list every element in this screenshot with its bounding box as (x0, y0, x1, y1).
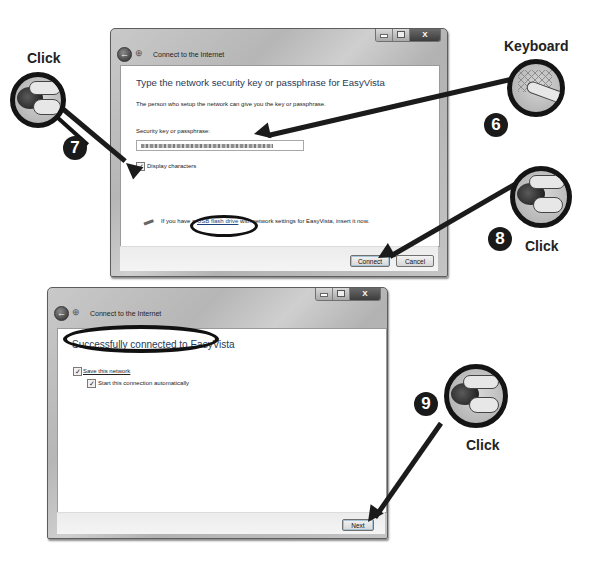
mouse-click-icon (510, 166, 572, 228)
highlight-oval-usb-link (190, 215, 258, 237)
keyboard-icon (507, 59, 565, 117)
callout-6-label: Keyboard (504, 38, 569, 54)
window-title: Connect to the Internet (90, 310, 161, 317)
back-arrow-icon[interactable]: ← (54, 306, 69, 321)
start-automatically-label[interactable]: Start this connection automatically (98, 380, 189, 386)
security-key-input[interactable] (136, 140, 304, 151)
obscured-key-text (141, 144, 273, 148)
hand-fingers (529, 175, 565, 189)
close-button[interactable]: X (410, 29, 440, 41)
hand-fingers (463, 375, 499, 389)
callout-8-label: Click (525, 238, 558, 254)
step-9-badge: 9 (414, 392, 438, 416)
connect-window-success: X ← ⊕ Connect to the Internet Successful… (47, 287, 388, 539)
description-text: The person who setup the network can giv… (136, 101, 326, 107)
callout-9-label: Click (466, 437, 499, 453)
caption-buttons: X (315, 288, 381, 301)
usb-text-suffix: with network settings for EasyVista, ins… (238, 218, 369, 224)
network-icon: ⊕ (135, 48, 143, 58)
close-button[interactable]: X (350, 288, 380, 300)
start-automatically-checkbox[interactable]: ✓ (87, 379, 96, 388)
callout-7-label: Click (27, 50, 60, 66)
mouse-click-icon (444, 364, 508, 428)
step-8-badge: 8 (488, 227, 512, 251)
step-7-badge: 7 (63, 136, 87, 160)
cancel-button[interactable]: Cancel (396, 255, 434, 267)
caption-buttons: X (375, 29, 441, 42)
step-6-badge: 6 (484, 113, 508, 137)
minimize-button[interactable] (376, 29, 393, 41)
maximize-button[interactable] (333, 288, 350, 300)
content-area: Successfully connected to EasyVista ✓ Sa… (57, 328, 387, 513)
content-area: Type the network security key or passphr… (120, 65, 440, 247)
save-network-label[interactable]: Save this network (83, 368, 130, 374)
hand-thumb (533, 197, 563, 213)
window-title: Connect to the Internet (153, 51, 224, 58)
maximize-button[interactable] (393, 29, 410, 41)
save-network-checkbox[interactable]: ✓ (73, 367, 82, 376)
hand-fingers (29, 81, 61, 95)
button-footer: Next (57, 512, 385, 534)
security-key-label: Security key or passphrase: (136, 128, 210, 134)
highlight-oval-success-heading (63, 325, 219, 353)
connect-window-security-key: X ← ⊕ Connect to the Internet Type the n… (110, 28, 448, 277)
usb-drive-icon: ▬ (141, 214, 154, 228)
display-characters-label[interactable]: Display characters (147, 163, 196, 169)
hand-thumb (33, 99, 61, 115)
page-heading: Type the network security key or passphr… (136, 77, 385, 88)
network-icon: ⊕ (72, 307, 80, 317)
back-arrow-icon[interactable]: ← (117, 47, 132, 62)
hand-thumb (469, 397, 499, 413)
minimize-button[interactable] (316, 288, 333, 300)
